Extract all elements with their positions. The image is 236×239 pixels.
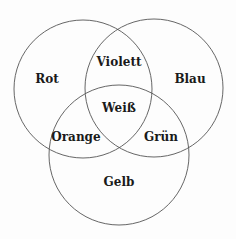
label-blau: Blau xyxy=(174,72,205,86)
label-orange: Orange xyxy=(51,130,100,144)
label-weiss: Weiß xyxy=(102,101,136,115)
label-rot: Rot xyxy=(35,72,59,86)
label-gelb: Gelb xyxy=(104,175,135,189)
label-violett: Violett xyxy=(97,55,142,69)
label-gruen: Grün xyxy=(144,130,178,144)
venn-diagram: Rot Blau Violett Weiß Orange Grün Gelb xyxy=(0,0,236,239)
venn-circles xyxy=(0,0,236,239)
